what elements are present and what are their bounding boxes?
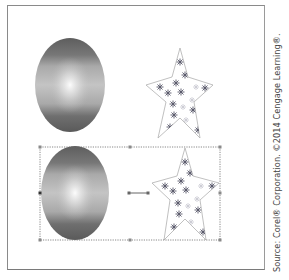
- handle-top-left[interactable]: [39, 146, 42, 149]
- rotation-center-marker[interactable]: [128, 192, 150, 195]
- gradient-ellipse-selected[interactable]: [41, 146, 109, 240]
- source-credit: Source: Corel® Corporation. ©2014 Cengag…: [272, 33, 282, 272]
- handle-middle-left[interactable]: [39, 192, 42, 195]
- drawing-canvas[interactable]: [0, 0, 289, 280]
- handle-bottom-left[interactable]: [39, 239, 42, 242]
- snowflake-star-selected[interactable]: [152, 148, 219, 240]
- handle-middle-right[interactable]: [219, 192, 222, 195]
- handle-top-right[interactable]: [219, 146, 222, 149]
- gradient-ellipse-original[interactable]: [35, 38, 105, 132]
- handle-top-center[interactable]: [129, 146, 132, 149]
- handle-bottom-right[interactable]: [219, 239, 222, 242]
- snowflake-star-original[interactable]: [146, 48, 213, 138]
- handle-bottom-center[interactable]: [129, 239, 132, 242]
